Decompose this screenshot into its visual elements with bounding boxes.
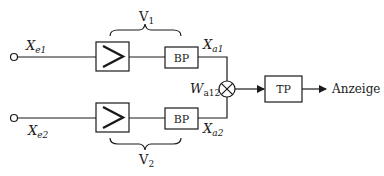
input-label-1: Xe1 [25,38,46,55]
channel-2: Xe2 BP V2 Xa2 [11,97,228,169]
amplifier-2 [96,103,129,132]
amplifier-group-label-2: V2 [138,152,154,169]
brace-v1 [110,24,181,36]
input-terminal-2 [11,115,18,122]
brace-v2 [110,138,181,150]
amplifier-1 [96,42,129,71]
input-terminal-1 [11,54,18,61]
bandpass-label-2: BP [174,113,190,126]
output-line-1 [198,57,227,81]
multiplier: Wa12 [190,81,235,98]
channel-1: Xe1 BP V1 Xa1 [11,9,228,81]
lowpass-label: TP [276,83,291,96]
output-label-2: Xa2 [202,121,224,138]
multiplier-label: Wa12 [190,81,220,98]
output-label-1: Xa1 [202,37,223,54]
output-display-label: Anzeige [331,82,380,96]
amplifier-group-label-1: V1 [138,9,154,26]
bandpass-label-1: BP [174,52,190,65]
input-label-2: Xe2 [27,123,49,140]
signal-correlation-diagram: Xe1 BP V1 Xa1 Xe2 BP V2 Xa2 W [0,0,384,176]
output-line-2 [198,97,227,118]
